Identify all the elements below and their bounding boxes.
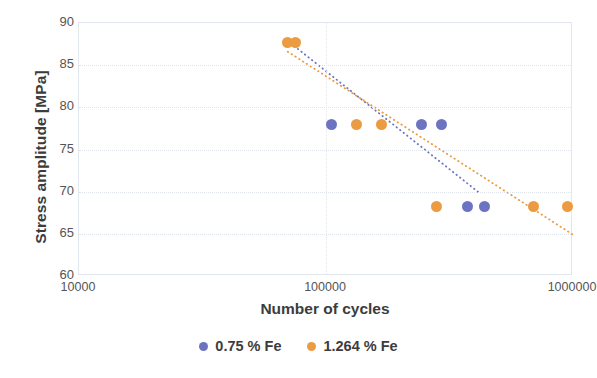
y-tick-label: 80 <box>40 99 74 112</box>
x-axis-tick-labels: 100001000001000000 <box>0 280 597 298</box>
y-axis-tick-labels: 90858075706560 <box>40 0 74 378</box>
legend-marker-icon <box>307 342 316 351</box>
x-tick-label: 100000 <box>304 280 346 294</box>
fatigue-sn-chart: Stress amplitude [MPa] 90858075706560 10… <box>0 0 597 378</box>
data-point <box>462 201 473 212</box>
legend-item-0[interactable]: 0.75 % Fe <box>199 338 281 354</box>
x-gridline <box>326 23 327 274</box>
y-gridline <box>79 107 571 108</box>
legend-item-1[interactable]: 1.264 % Fe <box>307 338 397 354</box>
data-point <box>376 119 387 130</box>
y-gridline <box>79 234 571 235</box>
legend-label: 1.264 % Fe <box>323 338 397 354</box>
data-point <box>436 119 447 130</box>
data-point <box>351 119 362 130</box>
x-tick-label: 1000000 <box>548 280 597 294</box>
y-tick-label: 85 <box>40 57 74 70</box>
legend-label: 0.75 % Fe <box>215 338 281 354</box>
data-point <box>528 201 539 212</box>
y-tick-label: 75 <box>40 142 74 155</box>
y-gridline <box>79 65 571 66</box>
data-point <box>479 201 490 212</box>
data-point <box>562 201 573 212</box>
plot-area <box>78 22 572 275</box>
chart-legend: 0.75 % Fe1.264 % Fe <box>0 338 597 354</box>
x-axis-title: Number of cycles <box>78 300 572 318</box>
y-tick-label: 90 <box>40 15 74 28</box>
x-tick-label: 10000 <box>61 280 96 294</box>
y-gridline <box>79 192 571 193</box>
y-gridline <box>79 150 571 151</box>
data-point <box>431 201 442 212</box>
legend-marker-icon <box>199 342 208 351</box>
data-point <box>290 37 301 48</box>
data-point <box>326 119 337 130</box>
y-tick-label: 65 <box>40 226 74 239</box>
y-tick-label: 70 <box>40 184 74 197</box>
data-point <box>416 119 427 130</box>
